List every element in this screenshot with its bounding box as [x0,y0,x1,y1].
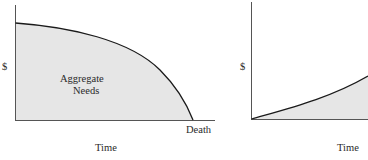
left-x-label: Time [95,142,117,154]
left-y-label: $ [2,61,7,73]
right-y-label: $ [240,61,245,73]
right-area-fill [252,76,368,119]
area-label-line2: Needs [73,85,99,97]
area-label-line1: Aggregate [60,73,104,85]
left-area-fill [16,23,194,120]
death-label: Death [186,124,211,136]
left-chart [15,5,215,121]
charts-canvas [0,0,368,160]
right-x-label: Time [337,142,359,154]
right-chart [251,2,368,120]
